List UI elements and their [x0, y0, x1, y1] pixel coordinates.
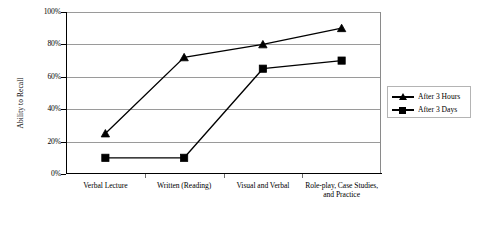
y-axis-tick-text: 100% — [31, 8, 61, 16]
y-axis-title: Ability to Recall — [14, 58, 28, 148]
gridline — [67, 44, 380, 45]
gridline — [67, 109, 380, 110]
legend-label: After 3 Hours — [415, 91, 460, 102]
x-axis-tick-label: Verbal Lecture — [66, 181, 145, 190]
y-axis-tick-label: 60% — [28, 73, 61, 81]
gridline — [67, 142, 380, 143]
y-axis-tick-mark — [61, 174, 66, 175]
y-axis-tick-mark — [61, 44, 66, 45]
x-axis-tick-label: Written (Reading) — [145, 181, 224, 190]
y-axis-tick-label: 100% — [28, 8, 61, 16]
y-axis-tick-text: 40% — [31, 105, 61, 113]
line-chart: Ability to Recall 0%20%40%60%80%100% Ver… — [0, 0, 481, 234]
gridline — [67, 77, 380, 78]
x-axis-tick-mark — [302, 174, 303, 178]
triangle-marker-icon — [391, 91, 415, 102]
legend: After 3 Hours After 3 Days — [387, 86, 471, 118]
y-axis-tick-text: 60% — [31, 73, 61, 81]
y-axis-tick-mark — [61, 77, 66, 78]
y-axis-tick-text: 80% — [31, 40, 61, 48]
gridline — [67, 12, 380, 13]
plot-area — [66, 12, 381, 174]
legend-item-after-3-days[interactable]: After 3 Days — [391, 103, 470, 116]
y-axis-tick-label: 0% — [28, 170, 61, 178]
x-axis-tick-label: Role-play, Case Studies, and Practice — [302, 181, 381, 200]
legend-item-after-3-hours[interactable]: After 3 Hours — [391, 90, 470, 103]
y-axis-tick-mark — [61, 142, 66, 143]
legend-label: After 3 Days — [415, 104, 457, 115]
y-axis-line — [66, 12, 67, 174]
x-axis-tick-mark — [145, 174, 146, 178]
x-axis-tick-label: Visual and Verbal — [224, 181, 303, 190]
square-marker-icon — [391, 104, 415, 115]
y-axis-tick-label: 40% — [28, 105, 61, 113]
y-axis-tick-text: 0% — [31, 170, 61, 178]
y-axis-tick-mark — [61, 12, 66, 13]
y-axis-tick-mark — [61, 109, 66, 110]
y-axis-tick-text: 20% — [31, 138, 61, 146]
y-axis-tick-label: 20% — [28, 138, 61, 146]
x-axis-tick-mark — [224, 174, 225, 178]
y-axis-tick-label: 80% — [28, 40, 61, 48]
